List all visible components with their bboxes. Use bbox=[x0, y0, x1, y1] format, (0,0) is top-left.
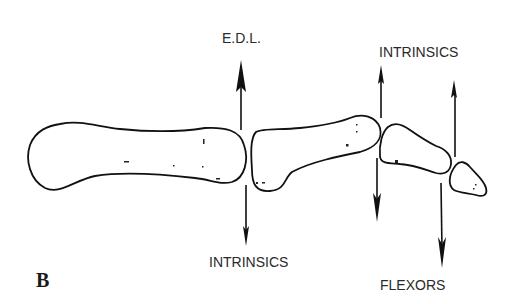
distal-phalanx-speck bbox=[395, 160, 398, 163]
flexors-label: FLEXORS bbox=[380, 277, 445, 293]
intrinsics-bottom-label: INTRINSICS bbox=[209, 254, 288, 270]
distal-phalanx bbox=[380, 124, 451, 173]
middle-down-arrow bbox=[373, 158, 381, 222]
finger-diagram: E.D.L. INTRINSICS INTRINSICS FLEXORS B bbox=[0, 0, 511, 304]
panel-label: B bbox=[36, 269, 49, 291]
tip-phalanx bbox=[450, 162, 487, 196]
edl-arrow bbox=[236, 60, 246, 130]
tip-phalanx-specks bbox=[473, 184, 477, 190]
flexors-arrow bbox=[438, 183, 446, 268]
intrinsics-upper-arrow bbox=[378, 65, 384, 118]
edl-label: E.D.L. bbox=[222, 30, 261, 46]
middle-phalanx bbox=[251, 116, 380, 191]
proximal-phalanx bbox=[28, 123, 246, 190]
intrinsics-top-label: INTRINSICS bbox=[379, 44, 458, 60]
intrinsics-lower-arrow bbox=[243, 185, 249, 246]
distal-up-arrow bbox=[451, 80, 457, 157]
middle-phalanx-specks bbox=[256, 124, 358, 184]
